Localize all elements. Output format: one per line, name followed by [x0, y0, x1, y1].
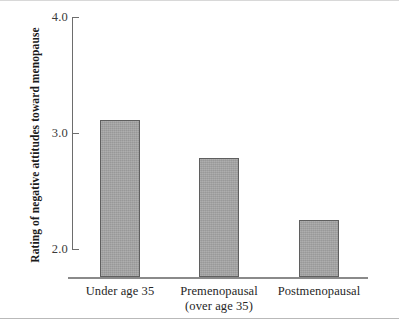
bar-postmenopausal: [299, 220, 339, 277]
y-tick-label-2: 2.0: [40, 242, 68, 257]
x-label-postmenopausal: Postmenopausal: [261, 284, 377, 299]
bar-premenopausal: [199, 158, 239, 277]
bar-under-age-35: [100, 120, 140, 277]
y-tick-label-2-wrap: 2.0: [36, 242, 68, 257]
y-axis-title: Rating of negative attitudes toward meno…: [29, 15, 41, 275]
y-tick-label-4-wrap: 4.0: [36, 10, 68, 25]
x-label-postmenopausal-line1: Postmenopausal: [278, 284, 361, 298]
y-tick-label-3-wrap: 3.0: [36, 126, 68, 141]
x-label-under-age-35-line1: Under age 35: [86, 284, 155, 298]
y-tick-2: [72, 249, 79, 250]
y-tick-3: [72, 133, 79, 134]
y-tick-label-4: 4.0: [40, 10, 68, 25]
bottom-divider-rule: [0, 318, 399, 319]
figure-root: Rating of negative attitudes toward meno…: [0, 0, 399, 325]
x-label-premenopausal-line2: (over age 35): [161, 299, 277, 314]
bar-chart-plot: Rating of negative attitudes toward meno…: [0, 0, 399, 325]
y-tick-4: [72, 17, 79, 18]
y-tick-label-3: 3.0: [40, 126, 68, 141]
x-label-premenopausal-line1: Premenopausal: [180, 284, 258, 298]
x-axis-line: [68, 277, 368, 279]
x-label-premenopausal: Premenopausal (over age 35): [161, 284, 277, 314]
